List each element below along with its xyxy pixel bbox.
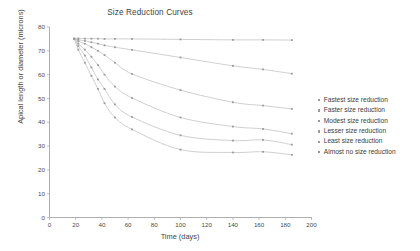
series-marker [97,43,99,45]
series-marker [180,57,182,59]
series-marker [91,46,93,48]
legend-item[interactable]: Fastest size reduction [318,95,418,105]
data-series [73,38,292,110]
chart-container: Size Reduction Curves 020406080100120140… [0,0,420,251]
series-marker [104,102,106,104]
series-marker [291,73,293,75]
series-marker [262,68,264,70]
legend-item[interactable]: Modest size reduction [318,116,418,126]
legend-item-label: Modest size reduction [324,118,388,125]
series-marker [91,56,93,58]
series-marker [291,144,293,146]
y-tick-label: 30 [38,142,45,149]
axes [50,27,313,218]
series-marker [262,105,264,107]
series-marker [180,89,182,91]
y-tick-label: 70 [38,47,45,54]
series-marker [131,38,133,40]
data-series [73,38,292,135]
series-marker [84,38,86,40]
x-tick-label: 80 [151,221,158,228]
legend-square-marker-icon [318,130,320,132]
series-marker [114,103,116,105]
series-marker [104,54,106,56]
series-marker [73,38,75,40]
x-tick-label: 160 [254,221,265,228]
series-marker [84,40,86,42]
series-marker [291,133,293,135]
data-series [73,38,292,156]
series-marker [97,78,99,80]
series-marker [104,88,106,90]
legend-item-label: Almost no size reduction [324,149,396,156]
series-marker [291,154,293,156]
series-marker [97,50,99,52]
legend-item[interactable]: Lesser size reduction [318,126,418,136]
series-line [74,39,291,134]
x-tick-label: 200 [306,221,317,228]
series-marker [262,128,264,130]
legend-square-marker-icon [318,151,320,153]
series-marker [291,39,293,41]
series-marker [114,62,116,64]
y-axis-label: Apical length or diameter (microns) [16,0,25,147]
series-marker [91,67,93,69]
legend-item[interactable]: Least size reduction [318,137,418,147]
x-tick-label: 140 [228,221,239,228]
y-axis-ticks: 01020304050607080 [38,23,49,221]
series-marker [114,46,116,48]
series-marker [91,38,93,40]
legend-item[interactable]: Almost no size reduction [318,147,418,157]
series-marker [104,44,106,46]
series-marker [104,38,106,40]
x-tick-label: 100 [175,221,186,228]
legend-square-marker-icon [318,99,320,101]
series-marker [97,64,99,66]
x-tick-label: 40 [98,221,105,228]
x-axis-ticks: 020406080100120140160180200 [48,218,317,229]
x-tick-label: 20 [72,221,79,228]
series-marker [131,73,133,75]
series-marker [232,140,234,142]
legend-item-label: Faster size reduction [324,107,385,114]
data-series [73,38,292,41]
series-marker [262,39,264,41]
legend-square-marker-icon [318,141,320,143]
x-tick-label: 180 [280,221,291,228]
x-tick-label: 120 [202,221,213,228]
series-marker [131,97,133,99]
chart-legend: Fastest size reductionFaster size reduct… [318,95,418,157]
legend-item-label: Lesser size reduction [324,128,386,135]
legend-item[interactable]: Faster size reduction [318,105,418,115]
series-marker [91,41,93,43]
y-tick-label: 0 [42,214,46,221]
series-marker [91,75,93,77]
series-marker [262,151,264,153]
legend-item-label: Least size reduction [324,138,383,145]
series-marker [232,152,234,154]
series-marker [232,39,234,41]
series-line [74,39,291,109]
series-marker [84,62,86,64]
series-marker [232,101,234,103]
series-line [74,39,291,74]
legend-item-label: Fastest size reduction [324,97,388,104]
series-marker [77,45,79,47]
series-line [74,39,291,155]
series-marker [180,134,182,136]
series-marker [291,108,293,110]
series-marker [84,55,86,57]
series-marker [114,86,116,88]
y-tick-label: 20 [38,166,45,173]
series-marker [232,65,234,67]
series-marker [97,88,99,90]
y-tick-label: 40 [38,118,45,125]
y-tick-label: 10 [38,190,45,197]
series-marker [114,38,116,40]
series-marker [84,43,86,45]
series-marker [180,38,182,40]
series-marker [131,116,133,118]
series-marker [77,43,79,45]
series-marker [180,117,182,119]
y-tick-label: 60 [38,71,45,78]
